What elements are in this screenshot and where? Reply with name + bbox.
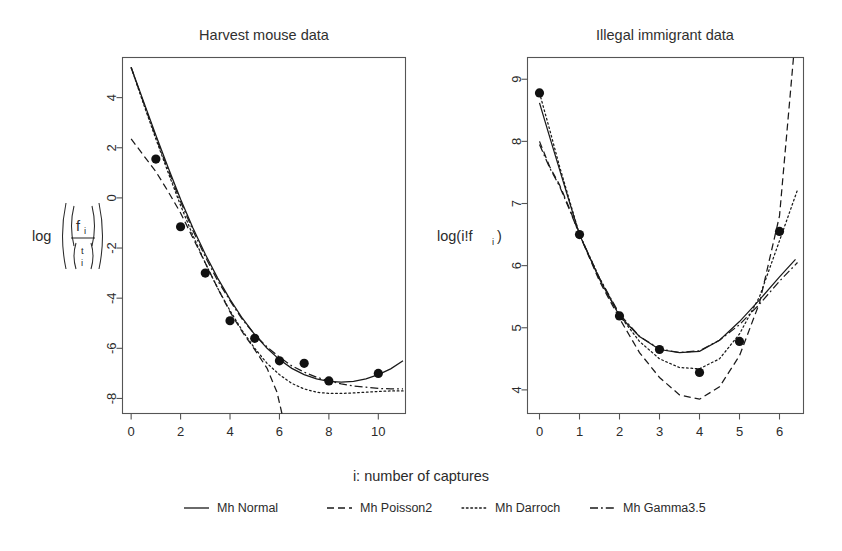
- x-tick-label: 5: [736, 424, 743, 439]
- y-label-binom-top: t: [81, 245, 84, 256]
- data-points-illegal-immigrant: [535, 88, 784, 377]
- curve-dashdot: [540, 144, 798, 352]
- y-label-suffix: ): [497, 228, 502, 244]
- x-tick-label: 1: [576, 424, 583, 439]
- y-label-numerator: f: [76, 218, 81, 234]
- y-tick-label: 7: [509, 200, 524, 207]
- y-tick-label: 8: [509, 138, 524, 145]
- y-label-numerator-sub: i: [84, 225, 86, 236]
- x-tick-label: 4: [696, 424, 703, 439]
- x-tick-label: 10: [371, 424, 385, 439]
- data-point: [655, 345, 664, 354]
- x-tick-label: 3: [656, 424, 663, 439]
- data-point: [324, 376, 333, 385]
- x-axis-harvest-mouse: 0246810: [128, 414, 386, 439]
- y-tick-label: 0: [104, 194, 119, 201]
- x-tick-label: 0: [128, 424, 135, 439]
- data-point: [775, 227, 784, 236]
- x-tick-label: 4: [226, 424, 233, 439]
- y-label-log-text: log: [32, 228, 51, 244]
- y-axis-label-illegal-immigrant: log(i!f i ): [437, 228, 502, 247]
- data-point: [151, 154, 160, 163]
- x-tick-label: 2: [616, 424, 623, 439]
- curve-solid: [131, 68, 403, 383]
- panel-title-illegal-immigrant: Illegal immigrant data: [596, 27, 735, 43]
- x-axis-illegal-immigrant: 0123456: [536, 414, 783, 439]
- figure-canvas: Harvest mouse data 420-2-4-6-8 0246810 l…: [0, 0, 842, 551]
- data-point: [300, 359, 309, 368]
- x-tick-label: 2: [177, 424, 184, 439]
- legend-label-darroch: Mh Darroch: [495, 501, 560, 515]
- data-point: [374, 369, 383, 378]
- x-tick-label: 6: [776, 424, 783, 439]
- x-tick-label: 0: [536, 424, 543, 439]
- y-tick-label: -6: [104, 343, 119, 355]
- data-point: [176, 222, 185, 231]
- x-axis-title: i: number of captures: [353, 468, 489, 484]
- data-point: [735, 337, 744, 346]
- x-tick-label: 8: [325, 424, 332, 439]
- y-tick-label: 6: [509, 262, 524, 269]
- data-point: [275, 356, 284, 365]
- panel-harvest-mouse: Harvest mouse data 420-2-4-6-8 0246810 l…: [32, 27, 406, 439]
- data-point: [250, 334, 259, 343]
- y-tick-label: 2: [104, 144, 119, 151]
- y-tick-label: 9: [509, 76, 524, 83]
- y-axis-illegal-immigrant: 987654: [509, 76, 528, 394]
- plot-box-illegal-immigrant: [528, 58, 804, 414]
- y-label-binom-bottom: i: [81, 257, 83, 268]
- y-tick-label: 5: [509, 324, 524, 331]
- legend: Mh NormalMh Poisson2Mh DarrochMh Gamma3.…: [184, 501, 706, 515]
- y-tick-label: -4: [104, 292, 119, 304]
- panel-title-harvest-mouse: Harvest mouse data: [199, 27, 330, 43]
- legend-label-gamma35: Mh Gamma3.5: [623, 501, 706, 515]
- legend-label-poisson2: Mh Poisson2: [360, 501, 432, 515]
- y-label-sub: i: [492, 236, 494, 247]
- curve-dashdot: [131, 68, 403, 389]
- data-point: [201, 269, 210, 278]
- curve-solid: [540, 103, 796, 353]
- fitted-curves-illegal-immigrant: [540, 58, 798, 400]
- x-tick-label: 6: [276, 424, 283, 439]
- data-points-harvest-mouse: [151, 154, 383, 385]
- data-point: [615, 311, 624, 320]
- y-axis-harvest-mouse: 420-2-4-6-8: [104, 94, 123, 404]
- y-tick-label: 4: [104, 94, 119, 101]
- data-point: [535, 88, 544, 97]
- y-axis-label-harvest-mouse: log f i t i: [32, 203, 103, 269]
- data-point: [695, 368, 704, 377]
- y-tick-label: 4: [509, 386, 524, 393]
- panel-illegal-immigrant: Illegal immigrant data 987654 0123456 lo…: [437, 27, 804, 439]
- data-point: [575, 230, 584, 239]
- fitted-curves-harvest-mouse: [131, 68, 403, 414]
- curve-dotted: [131, 68, 403, 394]
- y-tick-label: -2: [104, 242, 119, 254]
- legend-label-normal: Mh Normal: [217, 501, 278, 515]
- data-point: [225, 316, 234, 325]
- y-tick-label: -8: [104, 393, 119, 405]
- y-label-prefix: log(i!f: [437, 228, 473, 244]
